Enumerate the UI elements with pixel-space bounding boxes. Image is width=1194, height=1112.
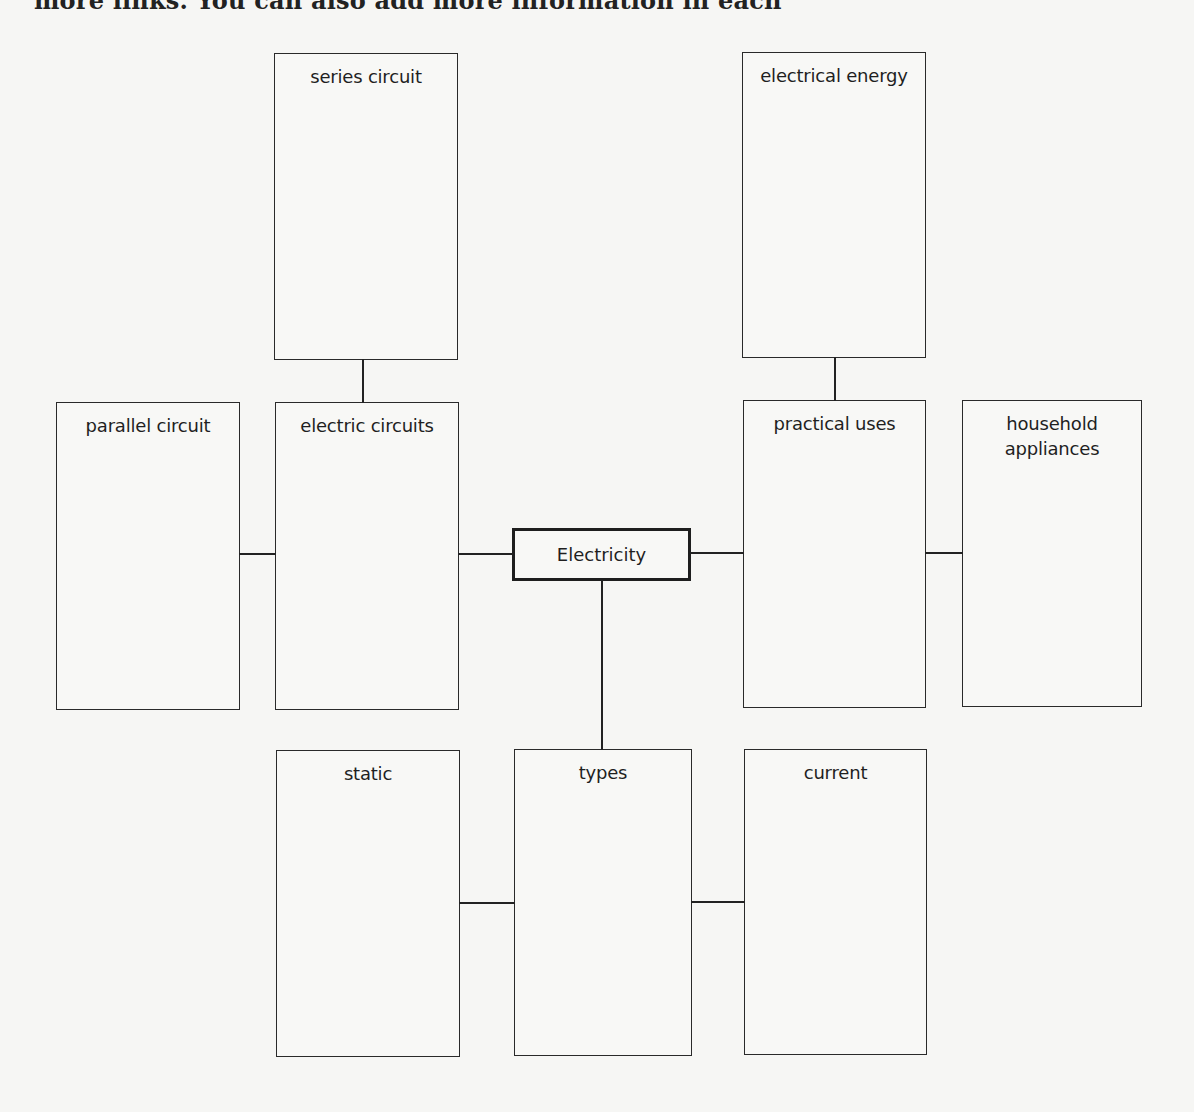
connector-static-to-types (459, 902, 515, 904)
node-label: types (515, 750, 691, 785)
connector-electric-circuits-to-electricity (458, 553, 513, 555)
node-current[interactable]: current (744, 749, 927, 1055)
node-label: parallel circuit (57, 403, 239, 438)
node-label: practical uses (744, 401, 925, 436)
node-label: electrical energy (743, 53, 925, 88)
connector-energy-to-practical-uses (834, 357, 836, 401)
connector-parallel-to-electric-circuits (239, 553, 276, 555)
connector-electricity-to-practical-uses (690, 552, 744, 554)
node-label: electric circuits (276, 403, 458, 438)
connector-types-to-current (691, 901, 745, 903)
connector-electricity-to-types (601, 580, 603, 750)
node-electric-circuits[interactable]: electric circuits (275, 402, 459, 710)
node-label: household appliances (963, 401, 1141, 461)
node-types[interactable]: types (514, 749, 692, 1056)
instruction-text-cut-off: more links. You can also add more inform… (34, 0, 782, 15)
node-label: series circuit (275, 54, 457, 89)
node-parallel-circuit[interactable]: parallel circuit (56, 402, 240, 710)
node-electrical-energy[interactable]: electrical energy (742, 52, 926, 358)
node-practical-uses[interactable]: practical uses (743, 400, 926, 708)
node-series-circuit[interactable]: series circuit (274, 53, 458, 360)
node-label: static (277, 751, 459, 786)
connector-practical-uses-to-household (925, 552, 963, 554)
node-electricity-center[interactable]: Electricity (512, 528, 691, 581)
node-household-appliances[interactable]: household appliances (962, 400, 1142, 707)
connector-series-to-electric-circuits (362, 359, 364, 403)
node-static[interactable]: static (276, 750, 460, 1057)
center-label: Electricity (557, 544, 646, 565)
node-label: current (745, 750, 926, 785)
